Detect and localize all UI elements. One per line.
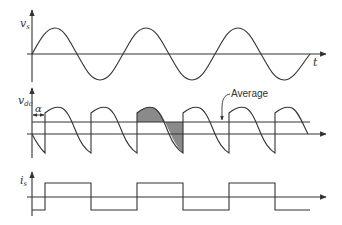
alpha-label: α (35, 103, 42, 114)
vs-plot: vs t (20, 10, 326, 82)
shaded-region-negative (165, 122, 183, 153)
vs-label: vs (20, 17, 30, 31)
is-plot: is (20, 172, 326, 216)
waveform-diagram: vs t α vdc Average is (0, 0, 342, 225)
is-label: is (20, 174, 28, 188)
time-label: t (313, 56, 318, 69)
vdc-label: vdc (18, 94, 33, 108)
average-label: Average (231, 88, 269, 99)
vdc-plot: α vdc Average (18, 88, 326, 158)
